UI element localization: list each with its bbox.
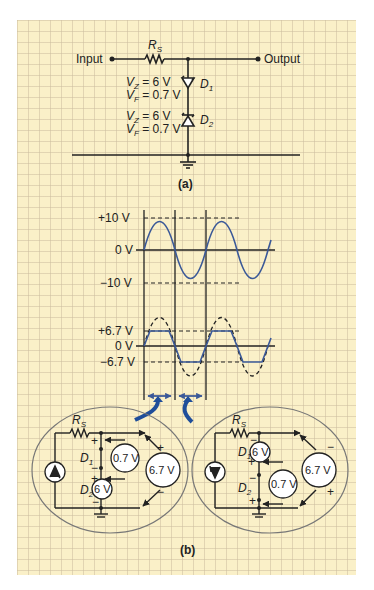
svg-text:0.7 V: 0.7 V [271,478,297,490]
input-terminal [110,57,115,62]
zener-d2-icon [182,116,194,126]
svg-text:D1: D1 [200,77,213,93]
svg-text:0 V: 0 V [115,339,133,353]
svg-text:RS: RS [72,413,87,429]
input-label: Input [76,52,103,66]
caption-b: (b) [180,543,195,557]
svg-text:0 V: 0 V [115,243,133,257]
svg-text:D2: D2 [200,113,214,129]
curved-arrow-left-icon [135,400,158,420]
svg-text:6.7 V: 6.7 V [305,464,331,476]
svg-text:+: + [157,441,164,455]
resistor-rs-icon [145,55,164,63]
diagram-canvas: Input Output RS VZ = 6 V VF = 0.7 V D1 V… [0,0,374,590]
output-label: Output [264,52,301,66]
curved-arrow-right-icon [185,400,192,422]
svg-text:+: + [249,494,256,508]
svg-text:+: + [91,472,98,486]
svg-text:+: + [327,485,334,499]
svg-text:−: − [157,485,164,499]
svg-text:−: − [250,433,257,447]
output-terminal [256,57,261,62]
svg-text:+6.7 V: +6.7 V [98,324,133,338]
svg-text:+: + [91,434,98,448]
svg-text:RS: RS [232,413,247,429]
svg-text:−: − [249,471,256,485]
svg-text:RS: RS [148,38,163,54]
caption-a: (a) [178,177,193,191]
svg-text:−: − [327,440,334,454]
svg-text:0.7 V: 0.7 V [113,452,139,464]
svg-text:−6.7 V: −6.7 V [100,355,135,369]
svg-text:+10 V: +10 V [98,211,130,225]
svg-text:6.7 V: 6.7 V [149,464,175,476]
svg-text:+: + [248,455,255,469]
svg-text:−10 V: −10 V [100,276,132,290]
circuit-a [72,55,300,168]
svg-text:−: − [92,495,99,509]
